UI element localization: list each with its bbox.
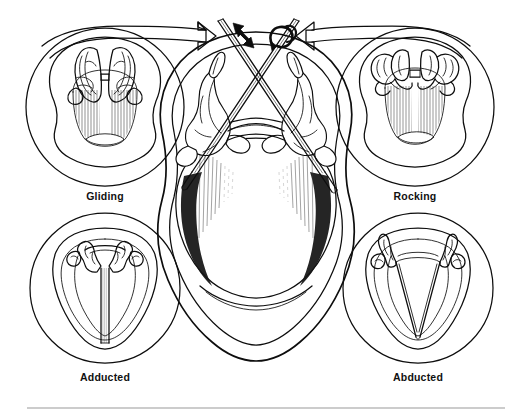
panel-abducted[interactable]: Abducted [343,213,493,383]
abducted-glottis [396,262,440,339]
figure-root: Gliding [0,0,513,416]
abducted-arytenoid-right [440,234,465,268]
gliding-interarytenoid-bridge [101,74,109,80]
adducted-label: Adducted [80,371,130,383]
central-larynx[interactable] [158,19,355,361]
central-hatch-right [291,150,313,238]
central-shade-left [181,172,212,286]
gliding-arrow-indicator [233,23,254,48]
central-hatch-left-fine [224,166,233,202]
abducted-label: Abducted [393,371,443,383]
rocking-arrow-indicator [270,26,296,51]
rocking-connector-upper-edge [312,26,470,46]
adducted-glottis [101,268,109,343]
abducted-arytenoid-left [371,234,396,268]
abducted-outer-circle [343,213,493,363]
gliding-label: Gliding [86,190,124,202]
rocking-posterior-band [398,132,434,143]
abducted-outer-rim [366,228,470,349]
rocking-label: Rocking [394,190,437,202]
abducted-vestibular-fold [388,256,449,336]
central-arytenoid-right [262,52,336,166]
rocking-outer-circle [336,28,494,186]
gliding-connector-upper-edge [42,26,206,46]
central-hatch-left [199,150,221,238]
panel-rocking[interactable]: Rocking [336,28,494,202]
central-shade-right [300,172,331,286]
abducted-posterior-band [396,258,440,263]
larynx-diagram-svg: Gliding [0,0,513,416]
gliding-laryngeal-outline [49,37,160,167]
central-hatch-right-fine [279,166,288,202]
adducted-interarytenoid-cap [85,246,125,251]
rocking-interarytenoid-bridge [410,70,420,77]
central-posterior-band [200,286,312,306]
gliding-posterior-band [86,134,124,145]
